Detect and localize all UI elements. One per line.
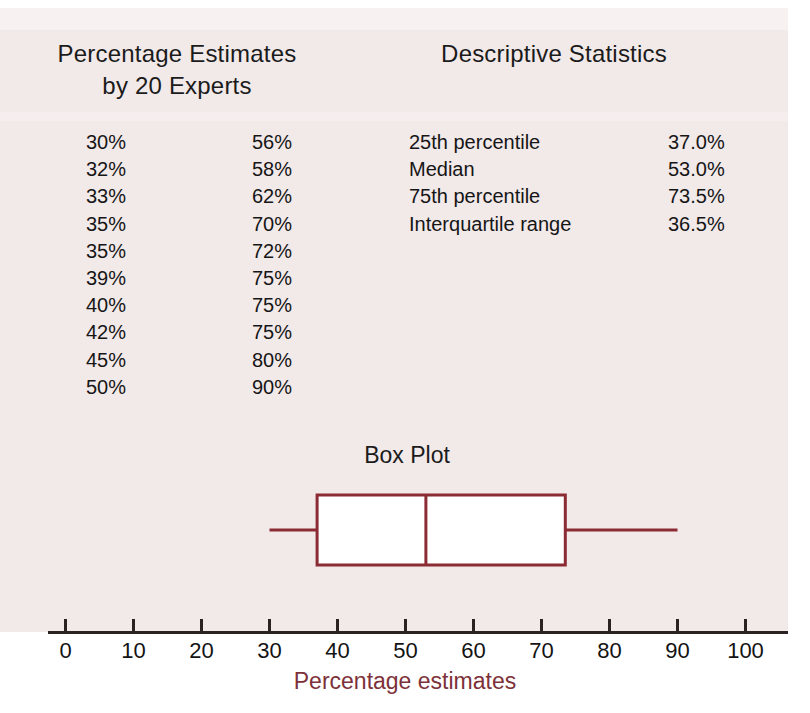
x-axis-tick-label: 50 [376,638,436,664]
x-axis-tick-label: 60 [444,638,504,664]
x-axis-tick-label: 100 [716,638,776,664]
boxplot-shapes [270,495,678,565]
x-axis-tick [336,619,339,632]
x-axis-tick [404,619,407,632]
x-axis-tick-label: 30 [240,638,300,664]
x-axis-tick-label: 80 [580,638,640,664]
x-axis-tick [608,619,611,632]
x-axis-tick-label: 10 [104,638,164,664]
x-axis-tick-label: 40 [308,638,368,664]
x-axis-tick [200,619,203,632]
figure-canvas: Percentage Estimates by 20 Experts Descr… [0,0,810,713]
x-axis-tick [64,619,67,632]
boxplot-box [317,495,565,565]
x-axis-tick-label: 70 [512,638,572,664]
x-axis-tick [472,619,475,632]
x-axis-tick [268,619,271,632]
x-axis-label: Percentage estimates [0,668,810,695]
x-axis-tick [744,619,747,632]
x-axis-tick [540,619,543,632]
x-axis-tick [676,619,679,632]
x-axis-tick-label: 0 [36,638,96,664]
x-axis-tick-label: 20 [172,638,232,664]
boxplot-graphic [0,0,810,713]
x-axis-tick [132,619,135,632]
x-axis-tick-label: 90 [648,638,708,664]
